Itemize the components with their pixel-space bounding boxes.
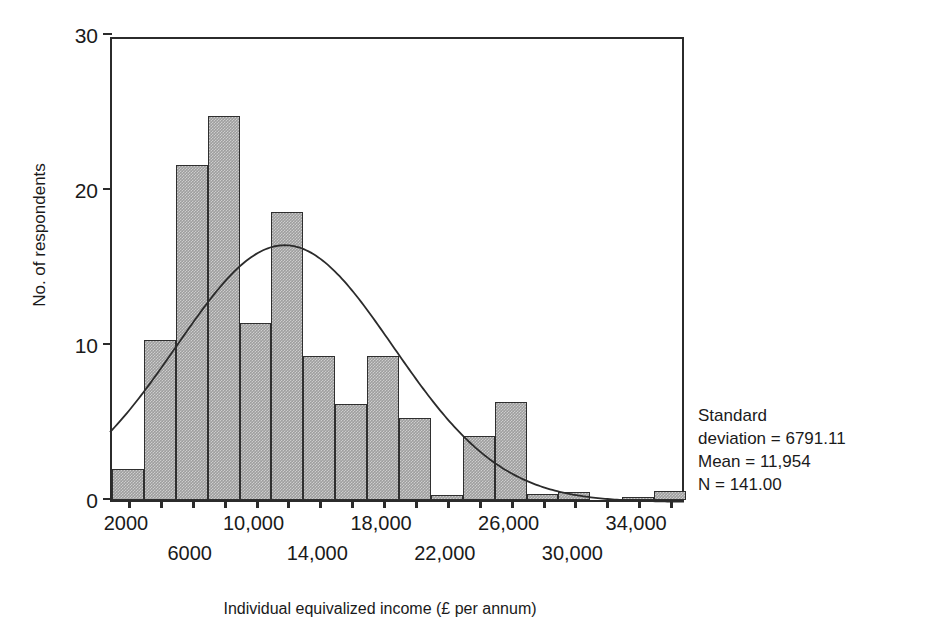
histogram-bar [144,340,176,500]
x-axis-tick-label: 18,000 [350,513,411,533]
histogram-figure: No. of respondents 0102030 Individual eq… [0,0,926,635]
x-axis-tick [192,500,195,508]
stats-line-standard: Standard [698,404,846,427]
x-axis-tick-label: 30,000 [542,543,603,563]
y-axis-tick-label: 20 [75,180,98,201]
x-axis-tick [287,500,290,508]
x-axis-tick [256,500,259,508]
x-axis-tick-label: 22,000 [414,543,475,563]
histogram-bar [271,212,303,500]
histogram-bar [399,418,431,500]
histogram-bar [112,469,144,500]
y-axis-tick-label: 0 [86,490,98,511]
histogram-bar [176,165,208,500]
x-axis-tick [511,500,514,508]
histogram-bar [654,491,686,500]
histogram-bar [463,436,495,500]
y-axis-tick [103,343,112,345]
y-axis-tick-label: 10 [75,335,98,356]
y-axis-tick [103,188,112,190]
x-axis-tick [638,500,641,508]
histogram-bar [367,356,399,500]
x-axis-tick [574,500,577,508]
y-axis-title: No. of respondents [30,125,50,345]
stats-annotation: Standard deviation = 6791.11 Mean = 11,9… [698,404,846,496]
stats-line-n: N = 141.00 [698,473,846,496]
x-axis-tick [447,500,450,508]
plot-area: 0102030 [110,37,684,502]
x-axis-title: Individual equivalized income (£ per ann… [0,600,760,618]
stats-line-mean: Mean = 11,954 [698,450,846,473]
x-axis-tick [670,500,673,508]
histogram-bar [495,402,527,500]
x-axis-tick-label: 14,000 [287,543,348,563]
x-axis-tick [351,500,354,508]
x-axis-tick [160,500,163,508]
stats-line-deviation: deviation = 6791.11 [698,427,846,450]
y-axis-tick-label: 30 [75,25,98,46]
x-axis-tick [319,500,322,508]
y-axis-tick [103,33,112,35]
histogram-bar [240,323,272,500]
x-axis-tick [383,500,386,508]
x-axis-tick [479,500,482,508]
x-axis-tick [224,500,227,508]
x-axis-tick-label: 10,000 [223,513,284,533]
histogram-bar [335,404,367,500]
x-axis-tick-label: 34,000 [606,513,667,533]
x-axis-tick-label: 26,000 [478,513,539,533]
x-axis-tick-label: 6000 [167,543,212,563]
histogram-bar [303,356,335,500]
x-axis-tick [128,500,131,508]
x-axis-tick [415,500,418,508]
y-axis-tick [103,498,112,500]
x-axis-tick [606,500,609,508]
x-axis-tick-label: 2000 [104,513,149,533]
histogram-bar [208,116,240,500]
histogram-bar [558,492,590,500]
x-axis-tick [543,500,546,508]
